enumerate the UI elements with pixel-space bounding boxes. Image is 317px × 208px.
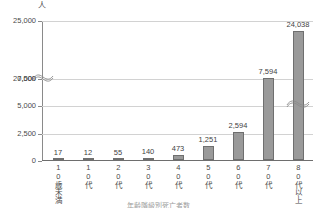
bar[interactable] [173,155,184,160]
bar-break-icon [286,98,310,109]
bar[interactable] [263,78,274,160]
bar[interactable] [293,31,304,160]
plot-area: 1712551404731,2512,5947,59424,038 [42,21,313,161]
bar[interactable] [113,158,124,160]
bar-value-label: 7,594 [259,67,278,76]
x-axis-tick-label: 30代 [144,163,152,188]
bar[interactable] [203,146,214,160]
y-axis-unit-label: 人 [38,0,46,10]
x-axis-line [42,160,313,161]
bar-slot: 140 [133,21,163,160]
chart-caption: 年齢階級別死亡者数 [0,200,317,208]
y-axis-tick-mark [38,161,42,162]
bar-value-label: 55 [114,148,122,157]
bar-slot: 17 [43,21,73,160]
bar-value-label: 473 [172,144,185,153]
y-axis-tick-label: 25,000 [0,16,36,25]
bar-value-label: 12 [84,148,92,157]
bar-slot: 24,038 [283,21,313,160]
bar-slot: 55 [103,21,133,160]
x-axis-tick-label: 10歳未満 [54,163,62,204]
bar[interactable] [143,158,154,160]
bar-slot: 2,594 [223,21,253,160]
bar-slot: 7,594 [253,21,283,160]
y-axis-tick-label: 20,000 [0,74,36,83]
bar[interactable] [83,158,94,160]
x-axis-tick-label: 70代 [264,163,272,188]
bar-slot: 473 [163,21,193,160]
bar-chart: 人 1712551404731,2512,5947,59424,038 02,5… [0,0,317,208]
x-axis-tick-label: 80代以上 [294,163,302,204]
bar-value-label: 17 [54,148,62,157]
bar-series: 1712551404731,2512,5947,59424,038 [43,21,313,160]
x-axis-tick-label: 10代 [84,163,92,188]
y-axis-tick-label: 5,000 [0,101,36,110]
x-axis-tick-label: 50代 [204,163,212,188]
bar-value-label: 2,594 [229,121,248,130]
bar[interactable] [233,132,244,160]
x-axis-tick-label: 40代 [174,163,182,188]
y-axis-tick-mark [38,106,42,107]
bar-value-label: 140 [142,147,155,156]
bar-slot: 1,251 [193,21,223,160]
bar-value-label: 24,038 [287,20,310,29]
bar-value-label: 1,251 [199,135,218,144]
y-axis-tick-mark [38,79,42,80]
y-axis-tick-mark [38,134,42,135]
x-axis-tick-label: 20代 [114,163,122,188]
y-axis-tick-label: 0 [0,156,36,165]
bar[interactable] [53,158,64,160]
y-axis-tick-mark [38,21,42,22]
y-axis-tick-label: 2,500 [0,129,36,138]
x-axis-tick-label: 60代 [234,163,242,188]
bar-slot: 12 [73,21,103,160]
